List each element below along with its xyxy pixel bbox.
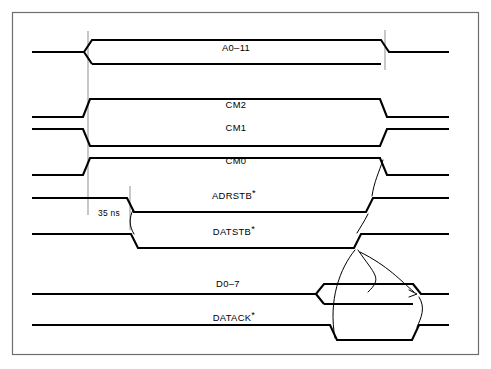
signal-labels: A0–11 CM2 CM1 CM0 ADRSTB* DATSTB* D0–7 D… — [212, 42, 256, 323]
signal-trace-datack — [32, 325, 449, 340]
label-d0-7: D0–7 — [216, 278, 240, 289]
timing-annotation: 35 ns — [98, 208, 120, 218]
arrow-cm0-to-adrstb — [372, 160, 383, 196]
label-datack: DATACK* — [213, 309, 256, 323]
datack-waveform — [32, 325, 449, 340]
label-adrstb: ADRSTB* — [212, 187, 256, 201]
arrow-adrstb-assert-to-datstb-assert — [130, 210, 134, 234]
arrow-adrstb-to-datstb — [357, 214, 368, 233]
arrow-datstb-to-datack — [333, 250, 355, 338]
label-datstb: DATSTB* — [213, 223, 255, 237]
arrow-datack-release-to-data-release — [417, 297, 423, 327]
label-datack-text: DATACK — [213, 312, 252, 323]
label-datstb-text: DATSTB — [213, 226, 251, 237]
timing-diagram-canvas: A0–11 CM2 CM1 CM0 ADRSTB* DATSTB* D0–7 D… — [0, 0, 491, 369]
timing-label-35ns: 35 ns — [98, 208, 120, 218]
label-cm2: CM2 — [226, 99, 247, 110]
arrow-datack-to-data-valid — [358, 250, 376, 292]
label-cm1: CM1 — [226, 122, 247, 133]
d0-7-waveform — [32, 284, 449, 304]
timing-diagram-figure: A0–11 CM2 CM1 CM0 ADRSTB* DATSTB* D0–7 D… — [0, 0, 491, 369]
arrow-data-to-datstb-release — [360, 252, 414, 292]
label-adrstb-asterisk: * — [252, 187, 256, 198]
label-datstb-asterisk: * — [251, 223, 255, 234]
label-datack-asterisk: * — [251, 309, 255, 320]
label-cm0: CM0 — [226, 155, 247, 166]
signal-trace-d0-7 — [32, 284, 449, 304]
label-adrstb-text: ADRSTB — [212, 190, 252, 201]
label-a0-11: A0–11 — [222, 42, 250, 53]
